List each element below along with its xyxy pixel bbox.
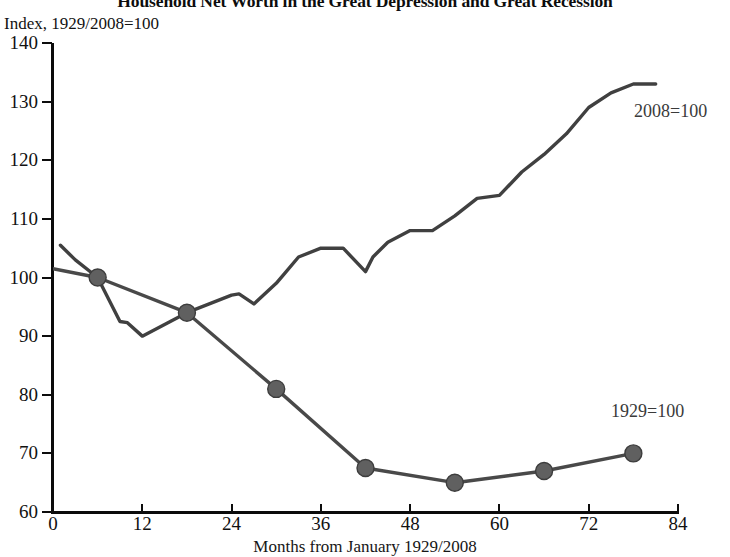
y-tick-140	[42, 42, 52, 44]
y-tick-label-70: 70	[19, 443, 38, 462]
x-tick-label-60: 60	[479, 514, 519, 533]
y-tick-110	[42, 218, 52, 220]
data-point-marker	[89, 269, 106, 286]
y-tick-label-100: 100	[10, 268, 39, 287]
series-line-1929-100	[53, 269, 633, 483]
chart-subtitle: Index, 1929/2008=100	[4, 14, 159, 34]
data-point-marker	[446, 474, 463, 491]
series-label-1929: 1929=100	[611, 401, 684, 422]
y-tick-label-130: 130	[10, 92, 39, 111]
series-label-2008: 2008=100	[634, 101, 707, 122]
y-tick-label-90: 90	[19, 326, 38, 345]
x-tick-label-48: 48	[390, 514, 430, 533]
x-tick-label-36: 36	[301, 514, 341, 533]
x-axis-caption: Months from January 1929/2008	[0, 537, 730, 557]
x-tick-label-72: 72	[569, 514, 609, 533]
y-tick-100	[42, 277, 52, 279]
x-tick-label-24: 24	[212, 514, 252, 533]
data-point-marker	[178, 304, 195, 321]
x-tick-label-12: 12	[122, 514, 162, 533]
data-point-marker	[625, 445, 642, 462]
plot-area	[53, 43, 678, 512]
y-tick-80	[42, 394, 52, 396]
x-tick-label-0: 0	[33, 514, 73, 533]
y-tick-130	[42, 101, 52, 103]
series-lines	[53, 43, 678, 512]
y-tick-120	[42, 159, 52, 161]
data-point-marker	[536, 462, 553, 479]
y-tick-label-140: 140	[10, 33, 39, 52]
data-point-marker	[357, 460, 374, 477]
chart-title: Household Net Worth in the Great Depress…	[0, 0, 730, 12]
y-tick-label-110: 110	[10, 209, 38, 228]
y-tick-label-120: 120	[10, 150, 39, 169]
y-tick-label-80: 80	[19, 385, 38, 404]
y-tick-70	[42, 452, 52, 454]
data-point-marker	[268, 380, 285, 397]
x-tick-label-84: 84	[658, 514, 698, 533]
y-tick-90	[42, 335, 52, 337]
